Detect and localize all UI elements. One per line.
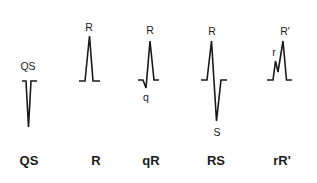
complex-qs: QS QS: [20, 60, 39, 168]
caption-rr-prime: rR': [273, 153, 291, 168]
complex-r: R R: [79, 21, 101, 168]
caption-qs: QS: [20, 153, 39, 168]
waveform-rr-prime: [267, 41, 292, 80]
wave-label-r-small: r: [272, 46, 276, 58]
wave-label-s: S: [213, 126, 220, 138]
complex-qr: R q qR: [138, 24, 160, 168]
waveform-qr: [138, 41, 159, 88]
complex-rs: R S RS: [201, 25, 227, 168]
wave-label-r: R: [85, 21, 93, 33]
waveform-rs: [201, 41, 227, 121]
caption-r: R: [91, 153, 101, 168]
waveform-r: [79, 36, 100, 81]
complex-rr-prime: r R' rR': [267, 25, 292, 168]
caption-qr: qR: [142, 153, 160, 168]
wave-label-r: R: [146, 24, 154, 36]
caption-rs: RS: [207, 153, 225, 168]
wave-label-r: R: [208, 25, 216, 37]
wave-label-r-prime: R': [280, 25, 290, 37]
waveform-qs: [22, 81, 37, 127]
wave-label-qs: QS: [20, 60, 35, 72]
wave-label-q: q: [143, 91, 149, 103]
qrs-morphology-diagram: QS QS R R R q qR R S RS r R' rR': [0, 0, 317, 183]
